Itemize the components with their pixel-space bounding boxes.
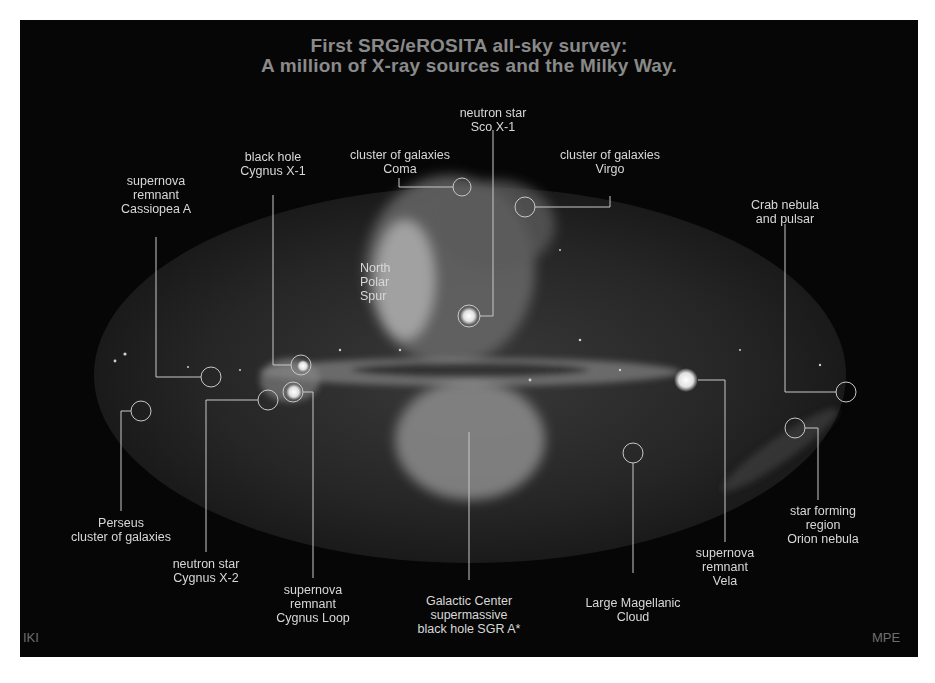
label-virgo: cluster of galaxies Virgo <box>540 148 680 176</box>
label-large-magellanic-cloud: Large Magellanic Cloud <box>568 596 698 624</box>
label-perseus: Perseus cluster of galaxies <box>56 516 186 544</box>
vela-source <box>674 368 698 392</box>
label-north-polar-spur: North Polar Spur <box>360 261 391 303</box>
label-orion-nebula: star forming region Orion nebula <box>768 504 878 546</box>
credit-mpe: MPE <box>872 630 900 645</box>
label-galactic-center: Galactic Center supermassive black hole … <box>404 594 534 636</box>
label-cygnus-loop: supernova remnant Cygnus Loop <box>258 583 368 625</box>
label-coma: cluster of galaxies Coma <box>330 148 470 176</box>
label-sco-x1: neutron star Sco X-1 <box>438 106 548 134</box>
credit-iki: IKI <box>23 630 39 645</box>
cygnus-loop-source <box>286 384 302 400</box>
cygnus-x1-source <box>297 360 309 372</box>
label-vela: supernova remnant Vela <box>675 546 775 588</box>
sco-x1-source <box>460 307 478 325</box>
label-crab-nebula: Crab nebula and pulsar <box>730 198 840 226</box>
label-cygnus-x1: black hole Cygnus X-1 <box>218 150 328 178</box>
label-cygnus-x2: neutron star Cygnus X-2 <box>151 557 261 585</box>
sky-map-panel: First SRG/eROSITA all-sky survey: A mill… <box>20 20 918 657</box>
label-cassiopea-a: supernova remnant Cassiopea A <box>96 174 216 216</box>
title-line-1: First SRG/eROSITA all-sky survey: <box>20 36 918 56</box>
title-line-2: A million of X-ray sources and the Milky… <box>20 56 918 76</box>
